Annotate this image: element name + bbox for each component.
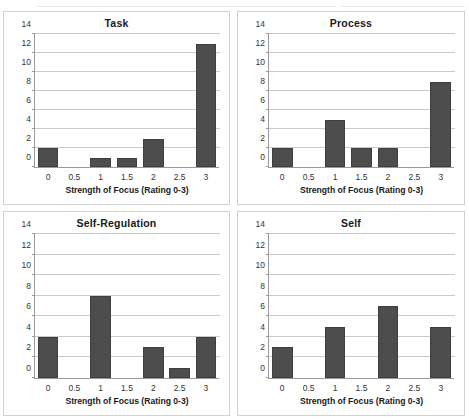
y-tick-mark: [32, 336, 35, 337]
figure-page: Task 0246810121400.511.522.53Strength of…: [0, 0, 469, 419]
chart-panel-self: Self 0246810121400.511.522.53Strength of…: [234, 208, 469, 419]
x-tick-label: 1.5: [356, 383, 368, 393]
bar: [90, 296, 111, 378]
panel-border: Self 0246810121400.511.522.53Strength of…: [237, 211, 465, 416]
gridline: [35, 254, 220, 255]
y-tick-label: 0: [26, 152, 31, 162]
y-tick-label: 2: [260, 133, 265, 143]
x-tick-label: 2: [386, 172, 391, 182]
gridline: [269, 356, 455, 357]
x-tick-label: 0.5: [303, 172, 315, 182]
y-tick-mark: [32, 33, 35, 34]
y-tick-label: 8: [260, 76, 265, 86]
bar: [325, 120, 346, 168]
y-tick-label: 0: [260, 363, 265, 373]
y-tick-mark: [266, 90, 269, 91]
bar: [196, 44, 217, 168]
y-tick-label: 8: [26, 76, 31, 86]
x-tick-label: 3: [203, 383, 208, 393]
x-tick-label: 2.5: [408, 172, 420, 182]
y-tick-label: 6: [260, 95, 265, 105]
y-tick-label: 14: [256, 19, 265, 29]
bar: [38, 148, 59, 167]
gridline: [269, 109, 455, 110]
y-tick-label: 10: [22, 260, 31, 270]
y-tick-label: 0: [260, 152, 265, 162]
plot-area: 0246810121400.511.522.53Strength of Focu…: [268, 234, 454, 379]
gridline: [35, 109, 220, 110]
y-tick-mark: [266, 147, 269, 148]
gridline: [269, 295, 455, 296]
y-tick-label: 2: [260, 342, 265, 352]
y-tick-mark: [266, 52, 269, 53]
bar: [351, 148, 372, 167]
gridline: [35, 233, 220, 234]
scan-artifact-strip: [0, 0, 469, 8]
plot-wrapper: 0246810121400.511.522.53Strength of Focu…: [238, 12, 464, 204]
chart-panel-task: Task 0246810121400.511.522.53Strength of…: [0, 8, 234, 208]
x-tick-label: 0: [280, 383, 285, 393]
bar: [325, 327, 346, 378]
bar: [117, 158, 138, 168]
x-tick-label: 1: [98, 172, 103, 182]
x-tick-label: 1.5: [356, 172, 368, 182]
y-tick-label: 4: [260, 114, 265, 124]
y-tick-mark: [32, 254, 35, 255]
bar: [143, 139, 164, 168]
gridline: [269, 254, 455, 255]
y-tick-mark: [32, 295, 35, 296]
x-axis-label: Strength of Focus (Rating 0-3): [35, 396, 219, 406]
bar: [430, 327, 451, 378]
bar: [196, 337, 217, 378]
x-tick-label: 0.5: [303, 383, 315, 393]
y-tick-label: 6: [260, 301, 265, 311]
gridline: [269, 233, 455, 234]
bar: [169, 368, 190, 378]
x-axis-label: Strength of Focus (Rating 0-3): [269, 396, 454, 406]
y-tick-label: 12: [256, 38, 265, 48]
bar: [272, 148, 293, 167]
gridline: [35, 71, 220, 72]
x-tick-label: 3: [203, 172, 208, 182]
y-tick-mark: [32, 233, 35, 234]
gridline: [35, 274, 220, 275]
y-tick-label: 14: [22, 219, 31, 229]
x-tick-label: 2: [151, 172, 156, 182]
y-tick-label: 10: [256, 260, 265, 270]
y-tick-label: 0: [26, 363, 31, 373]
y-tick-label: 4: [260, 322, 265, 332]
x-tick-label: 3: [438, 172, 443, 182]
gridline: [35, 52, 220, 53]
x-tick-label: 0: [280, 172, 285, 182]
x-tick-label: 1: [333, 172, 338, 182]
y-tick-mark: [266, 166, 269, 167]
gridline: [35, 33, 220, 34]
gridline: [269, 128, 455, 129]
gridline: [269, 274, 455, 275]
y-tick-mark: [266, 315, 269, 316]
y-tick-mark: [32, 90, 35, 91]
y-tick-label: 10: [22, 57, 31, 67]
plot-wrapper: 0246810121400.511.522.53Strength of Focu…: [4, 12, 229, 204]
y-tick-label: 6: [26, 95, 31, 105]
gridline: [35, 147, 220, 148]
x-tick-label: 0: [46, 172, 51, 182]
y-tick-mark: [266, 336, 269, 337]
bar: [38, 337, 59, 378]
y-tick-mark: [266, 128, 269, 129]
plot-area: 0246810121400.511.522.53Strength of Focu…: [34, 234, 219, 379]
y-tick-mark: [32, 52, 35, 53]
x-axis-label: Strength of Focus (Rating 0-3): [269, 185, 454, 195]
x-tick-label: 1: [98, 383, 103, 393]
y-tick-label: 14: [256, 219, 265, 229]
x-tick-label: 3: [438, 383, 443, 393]
gridline: [35, 336, 220, 337]
y-tick-mark: [32, 109, 35, 110]
x-tick-label: 1.5: [121, 172, 133, 182]
y-tick-label: 2: [26, 342, 31, 352]
y-tick-mark: [32, 356, 35, 357]
y-tick-mark: [266, 254, 269, 255]
chart-panel-process: Process 0246810121400.511.522.53Strength…: [234, 8, 469, 208]
gridline: [35, 356, 220, 357]
panel-border: Self-Regulation 0246810121400.511.522.53…: [3, 211, 230, 416]
